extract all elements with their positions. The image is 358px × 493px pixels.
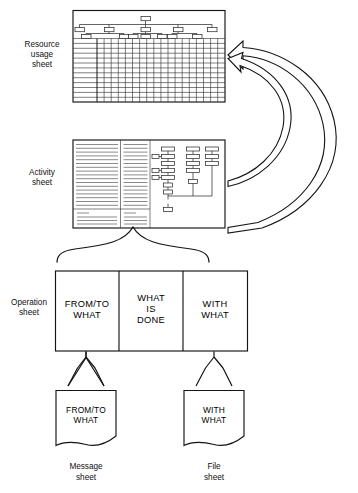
- file-sheet-caption-line-2: sheet: [204, 473, 225, 482]
- flow-node-c3: [206, 162, 219, 166]
- operation-label-line-2: sheet: [19, 308, 40, 317]
- brace-activity-to-operation: [57, 227, 209, 262]
- file-sheet-line-1: WITH: [203, 405, 225, 415]
- flow-node-a4: [162, 169, 175, 173]
- resource-tree-node-l3-4: [141, 35, 151, 39]
- flow-node-a-stub2: [152, 169, 159, 173]
- operation-cell-1-line-1: FROM/TO: [65, 299, 109, 309]
- resource-label-line-1: Resource: [24, 40, 59, 49]
- operation-cell-1-line-2: WHAT: [73, 310, 101, 320]
- operation-cell-with-what: WITH WHAT: [201, 299, 229, 320]
- flow-node-a5: [162, 176, 175, 180]
- resource-tree-node-l3-3: [129, 35, 139, 39]
- resource-label-line-2: usage: [31, 50, 54, 59]
- file-sheet-caption-line-1: File: [207, 462, 221, 471]
- flow-node-b3: [187, 162, 200, 166]
- message-sheet-line-2: WHAT: [74, 415, 99, 425]
- operation-label-line-1: Operation: [11, 298, 47, 307]
- activity-label-line-1: Activity: [29, 168, 56, 177]
- flow-node-a8: [164, 208, 173, 212]
- operation-cell-2-line-3: DONE: [137, 315, 165, 325]
- diagram-canvas: Resource usage sheet: [0, 0, 358, 493]
- flow-node-b2: [187, 155, 200, 159]
- operation-cell-2-line-2: IS: [146, 304, 155, 314]
- resource-label-line-3: sheet: [32, 60, 53, 69]
- flow-node-a6: [164, 183, 173, 187]
- message-sheet: FROM/TO WHAT Message sheet: [56, 391, 116, 483]
- resource-tree-node-l2-4: [174, 28, 184, 32]
- operation-sheet: FROM/TO WHAT WHAT IS DONE WITH WHAT: [56, 271, 248, 351]
- activity-sheet-label: Activity sheet: [29, 168, 56, 187]
- flow-node-a3: [162, 162, 175, 166]
- flow-node-a2: [162, 155, 175, 159]
- operation-sheet-label: Operation sheet: [11, 298, 47, 317]
- flow-node-a1: [162, 147, 175, 151]
- resource-usage-sheet-label: Resource usage sheet: [24, 40, 59, 69]
- resource-tree-node-root: [141, 17, 151, 21]
- operation-cell-3-line-2: WHAT: [201, 310, 229, 320]
- message-sheet-line-1: FROM/TO: [66, 405, 106, 415]
- flow-node-b5: [189, 180, 198, 184]
- chevron-right: [196, 352, 232, 387]
- resource-tree-node-l3-5: [158, 35, 168, 39]
- operation-cell-3-line-1: WITH: [203, 299, 228, 309]
- diagram-svg: Resource usage sheet: [0, 0, 358, 493]
- chevron-connectors: [68, 352, 232, 387]
- resource-usage-sheet: [73, 11, 225, 103]
- feedback-arrow-lower: [228, 53, 291, 187]
- resource-tree-node-l3-6: [168, 35, 178, 39]
- file-sheet-line-2: WHAT: [202, 415, 227, 425]
- operation-cell-2-line-1: WHAT: [137, 293, 165, 303]
- message-sheet-caption-line-1: Message: [69, 462, 103, 471]
- flow-node-b4: [187, 169, 200, 173]
- resource-tree-node-l2-1: [75, 28, 85, 32]
- activity-label-line-2: sheet: [32, 178, 53, 187]
- chevron-left: [68, 352, 104, 387]
- file-sheet: WITH WHAT File sheet: [184, 391, 244, 483]
- brace-path: [57, 227, 209, 262]
- flow-node-c1: [206, 147, 219, 151]
- flow-node-a-stub1: [152, 155, 159, 159]
- message-sheet-caption-line-2: sheet: [76, 473, 97, 482]
- resource-tree-node-l3-7: [193, 35, 203, 39]
- flow-node-b1: [187, 147, 200, 151]
- resource-tree-node-l2-5: [208, 28, 218, 32]
- activity-sheet-frame: [73, 140, 225, 228]
- resource-tree-node-l2-3: [141, 28, 151, 32]
- activity-sheet: [73, 140, 225, 228]
- flow-node-a7: [164, 190, 173, 194]
- flow-node-c2: [206, 155, 219, 159]
- resource-tree-node-l3-2: [120, 35, 130, 39]
- resource-tree-node-l2-2: [105, 28, 115, 32]
- flow-node-a-stub3: [152, 176, 159, 180]
- resource-tree-node-l3-1: [82, 35, 92, 39]
